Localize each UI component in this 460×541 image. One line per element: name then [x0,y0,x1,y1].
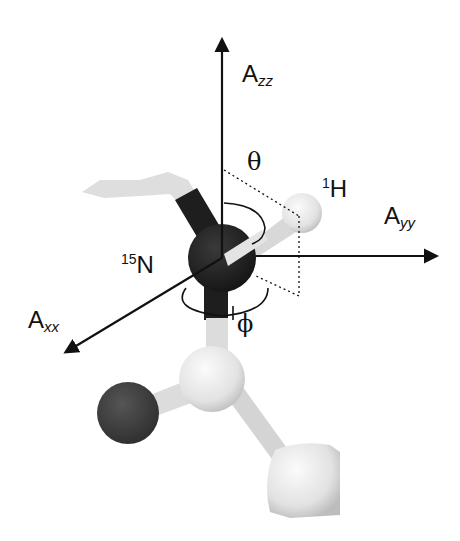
tensor-orientation-diagram: Azz Ayy Axx 1H 15N θ ϕ [0,0,460,541]
oxygen-atom [97,382,159,444]
lower-carbon-atom [267,443,340,518]
label-axx: Axx [28,306,60,335]
carbon-atom [179,346,245,412]
label-azz: Azz [242,60,274,89]
label-nitrogen: 15N [121,251,154,278]
label-hydrogen: 1H [322,175,347,202]
label-ayy: Ayy [384,202,417,231]
label-theta: θ [247,148,261,176]
label-phi: ϕ [237,310,253,338]
molecule [82,172,340,518]
hydrogen-atom [282,193,322,233]
